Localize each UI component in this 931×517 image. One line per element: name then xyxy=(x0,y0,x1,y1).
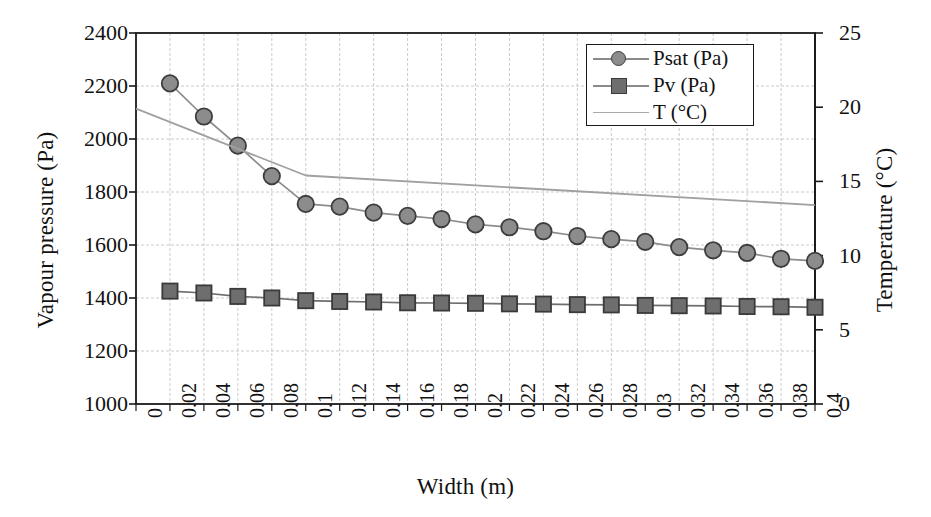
y-axis-left-tick-label: 1800 xyxy=(38,179,128,205)
y-axis-left-tick-label: 1600 xyxy=(38,232,128,258)
x-axis-tick-label: 0.3 xyxy=(653,393,676,418)
y-axis-right-tick-label: 10 xyxy=(839,243,899,269)
legend-item-psat: Psat (Pa) xyxy=(587,45,755,72)
x-axis-tick-label: 0.14 xyxy=(382,383,405,418)
legend-item-pv: Pv (Pa) xyxy=(587,72,755,99)
legend-label-pv: Pv (Pa) xyxy=(653,73,715,98)
y-axis-left-tick-label: 1400 xyxy=(38,285,128,311)
x-axis-tick-label: 0.02 xyxy=(178,383,201,418)
x-axis-tick-label: 0.36 xyxy=(755,383,778,418)
y-axis-left-tick-label: 2400 xyxy=(38,20,128,46)
x-axis-tick-label: 0.26 xyxy=(585,383,608,418)
x-axis-tick-label: 0.2 xyxy=(484,393,507,418)
x-axis-tick-label: 0.18 xyxy=(450,383,473,418)
legend-label-psat: Psat (Pa) xyxy=(653,46,728,71)
x-axis-tick-label: 0.4 xyxy=(823,393,846,418)
x-axis-tick-label: 0.08 xyxy=(280,383,303,418)
y-axis-left-tick-label: 2000 xyxy=(38,126,128,152)
y-axis-right-tick-label: 20 xyxy=(839,94,899,120)
x-axis-tick-label: 0.32 xyxy=(687,383,710,418)
y-axis-right-tick-label: 0 xyxy=(839,391,899,417)
x-axis-tick-label: 0 xyxy=(144,408,167,418)
y-axis-left-tick-label: 2200 xyxy=(38,73,128,99)
x-axis-tick-label: 0.04 xyxy=(212,383,235,418)
x-axis-tick-label: 0.28 xyxy=(619,383,642,418)
chart-legend: Psat (Pa) Pv (Pa) T (°C) xyxy=(586,44,754,126)
plot-canvas xyxy=(0,0,931,517)
psat-marker-icon xyxy=(587,45,653,72)
pv-marker-icon xyxy=(587,72,653,99)
y-axis-right-tick-label: 25 xyxy=(839,20,899,46)
y-axis-left-tick-label: 1000 xyxy=(38,391,128,417)
legend-item-temperature: T (°C) xyxy=(587,99,755,126)
x-axis-tick-label: 0.1 xyxy=(314,393,337,418)
chart-figure: Vapour pressure (Pa) Temperature (°C) Wi… xyxy=(0,0,931,517)
x-axis-tick-label: 0.22 xyxy=(517,383,540,418)
y-axis-right-tick-label: 5 xyxy=(839,317,899,343)
x-axis-tick-label: 0.16 xyxy=(416,383,439,418)
x-axis-tick-label: 0.34 xyxy=(721,383,744,418)
y-axis-left-tick-label: 1200 xyxy=(38,338,128,364)
x-axis-tick-label: 0.38 xyxy=(789,383,812,418)
x-axis-tick-label: 0.12 xyxy=(348,383,371,418)
x-axis-tick-label: 0.24 xyxy=(551,383,574,418)
temperature-line-icon xyxy=(587,99,653,126)
legend-label-temperature: T (°C) xyxy=(653,100,707,125)
y-axis-right-tick-label: 15 xyxy=(839,168,899,194)
x-axis-tick-label: 0.06 xyxy=(246,383,269,418)
